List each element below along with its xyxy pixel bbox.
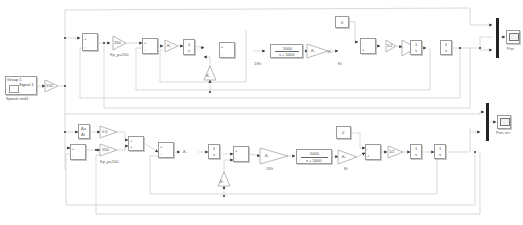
top-kt-value: -K- bbox=[327, 50, 332, 54]
tf-den: s + 5000 bbox=[306, 159, 321, 163]
bottom-scope-label: Pos. err bbox=[496, 131, 510, 135]
top-integrator1-block[interactable]: 1 s bbox=[410, 40, 422, 55]
bottom-ff-value: 0.5 bbox=[102, 130, 108, 134]
den: s bbox=[439, 153, 441, 157]
top-mux[interactable] bbox=[496, 18, 499, 58]
sign: - bbox=[160, 152, 161, 156]
bottom-integrator2-block[interactable]: 1 s bbox=[434, 144, 446, 159]
bottom-constant-block[interactable]: 0 bbox=[336, 126, 351, 139]
top-inv-kt-label: 1/Kt bbox=[254, 62, 261, 66]
signal-preview-icon bbox=[9, 85, 19, 93]
den: s bbox=[415, 153, 417, 157]
source-block-label: Speed cmd1 bbox=[6, 97, 28, 101]
sign: - bbox=[362, 41, 363, 45]
sign: + bbox=[84, 37, 86, 41]
signal-builder-block[interactable]: Group 1 Signal 1 bbox=[5, 76, 37, 95]
num: 1 bbox=[415, 147, 417, 151]
bottom-kp-value: 150 bbox=[102, 148, 109, 152]
top-kt-label: Kt bbox=[338, 62, 342, 66]
sign: - bbox=[221, 52, 222, 56]
sign: + bbox=[235, 149, 237, 153]
top-kp-label: Kp_p=150 bbox=[110, 53, 128, 57]
top-constant-block[interactable]: 0 bbox=[335, 16, 349, 28]
tf-num: 5000 bbox=[310, 152, 319, 156]
top-inv-kt-value: -K- bbox=[310, 49, 315, 53]
den: Δt bbox=[81, 133, 85, 137]
den: s bbox=[445, 49, 447, 53]
constant-value: 0 bbox=[341, 21, 343, 25]
num: 1 bbox=[415, 43, 417, 47]
bottom-kt-label: Kt bbox=[344, 167, 348, 171]
sign: + bbox=[144, 41, 146, 45]
num: Δu bbox=[81, 127, 86, 131]
sign: - bbox=[72, 154, 73, 158]
sign: - bbox=[84, 45, 85, 49]
sign: + bbox=[362, 48, 364, 52]
den: s bbox=[213, 153, 215, 157]
top-inv-j-value: 1/J bbox=[387, 44, 392, 48]
constant-value: 0 bbox=[342, 131, 344, 135]
num: 1 bbox=[213, 147, 215, 151]
bottom-inv-kt-value: -K- bbox=[264, 154, 269, 158]
top-sum4-block[interactable]: - + bbox=[360, 38, 376, 54]
num: 1 bbox=[188, 43, 190, 47]
num: 1 bbox=[445, 43, 447, 47]
sign: + bbox=[130, 145, 132, 149]
bottom-tf-block[interactable]: 5000 s + 5000 bbox=[296, 149, 332, 164]
sign: - bbox=[235, 156, 236, 160]
sign: + bbox=[130, 139, 132, 143]
bottom-k1-value: -K- bbox=[182, 150, 187, 154]
scope-screen-icon bbox=[509, 33, 519, 41]
bottom-sum-ff-block[interactable]: + + bbox=[128, 136, 144, 151]
bottom-sum4-block[interactable]: - + bbox=[365, 144, 381, 160]
num: 1 bbox=[439, 147, 441, 151]
den: s bbox=[415, 49, 417, 53]
top-integrator2-block[interactable]: 1 s bbox=[440, 40, 452, 55]
top-sum2-block[interactable]: + - bbox=[142, 38, 158, 54]
bottom-sum3-block[interactable]: + - bbox=[233, 146, 249, 162]
bottom-feedback-value: -K- bbox=[219, 180, 224, 184]
top-k1-value: -K- bbox=[166, 44, 171, 48]
input-gain-value: 150 bbox=[46, 84, 53, 88]
bottom-scope-block[interactable] bbox=[497, 115, 511, 129]
top-scope-block[interactable] bbox=[506, 30, 520, 44]
top-sum3-block[interactable]: + - bbox=[219, 42, 235, 58]
bottom-kp-label: Kp_p=150 bbox=[100, 160, 118, 164]
bottom-sum1-block[interactable]: + - bbox=[70, 144, 86, 160]
bottom-sum2-block[interactable]: + - bbox=[158, 142, 174, 158]
top-sum1-block[interactable]: + - bbox=[82, 33, 98, 51]
scope-screen-icon bbox=[500, 118, 510, 126]
sign: - bbox=[144, 48, 145, 52]
bottom-integrator1-block[interactable]: 1 s bbox=[410, 144, 422, 159]
bottom-derivative-block[interactable]: Δu Δt bbox=[78, 124, 90, 139]
bottom-kt-value: -K- bbox=[341, 155, 346, 159]
sign: + bbox=[72, 147, 74, 151]
den: s bbox=[188, 49, 190, 53]
top-feedback-value: -K- bbox=[205, 74, 210, 78]
tf-den: s + 5000 bbox=[279, 53, 294, 57]
sign: + bbox=[221, 45, 223, 49]
top-scope-label: Pos bbox=[507, 47, 514, 51]
top-kp-value: 150 bbox=[114, 41, 121, 45]
sign: + bbox=[160, 145, 162, 149]
sign: - bbox=[367, 147, 368, 151]
bottom-mux[interactable] bbox=[486, 103, 489, 141]
sign: + bbox=[367, 154, 369, 158]
bottom-frac-block[interactable]: 1 s bbox=[208, 144, 220, 159]
bottom-inv-kt-label: 1/Kt bbox=[266, 167, 273, 171]
bottom-inv-j-value: 1/J bbox=[389, 150, 394, 154]
top-tf-block[interactable]: 5000 s + 5000 bbox=[270, 44, 303, 58]
top-frac-block[interactable]: 1 s bbox=[183, 39, 195, 55]
signal-lines bbox=[0, 0, 523, 225]
signal-label: Signal 1 bbox=[19, 83, 33, 87]
simulink-canvas: Group 1 Signal 1 Speed cmd1 150 + - 150 … bbox=[0, 0, 523, 225]
